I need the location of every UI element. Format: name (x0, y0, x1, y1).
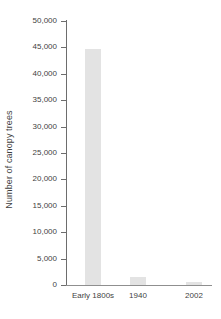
y-tick-label: 30,000 (0, 122, 57, 131)
x-axis-line (66, 285, 212, 286)
y-tick-label: 35,000 (0, 95, 57, 104)
y-tick-mark (61, 232, 66, 233)
plot-area (67, 21, 212, 285)
y-tick-mark (61, 285, 66, 286)
bar (186, 282, 202, 285)
y-tick-label: 20,000 (0, 174, 57, 183)
y-tick-mark (61, 21, 66, 22)
y-tick-label: 50,000 (0, 16, 57, 25)
y-tick-mark (61, 206, 66, 207)
y-tick-mark (61, 100, 66, 101)
y-tick-mark (61, 127, 66, 128)
y-tick-label: 45,000 (0, 42, 57, 51)
y-tick-label: 25,000 (0, 148, 57, 157)
x-tick-label: Early 1800s (72, 291, 114, 300)
y-tick-mark (61, 153, 66, 154)
y-tick-mark (61, 74, 66, 75)
y-tick-mark (61, 179, 66, 180)
bar-chart: Number of canopy trees 05,00010,00015,00… (0, 0, 221, 319)
x-tick-label: 1940 (129, 291, 147, 300)
y-tick-label: 5,000 (0, 254, 57, 263)
y-tick-label: 40,000 (0, 69, 57, 78)
y-tick-label: 0 (0, 280, 57, 289)
y-tick-label: 15,000 (0, 201, 57, 210)
y-tick-mark (61, 47, 66, 48)
y-tick-mark (61, 259, 66, 260)
y-tick-label: 10,000 (0, 227, 57, 236)
bar (85, 49, 101, 285)
bar (130, 277, 146, 285)
x-tick-label: 2002 (185, 291, 203, 300)
